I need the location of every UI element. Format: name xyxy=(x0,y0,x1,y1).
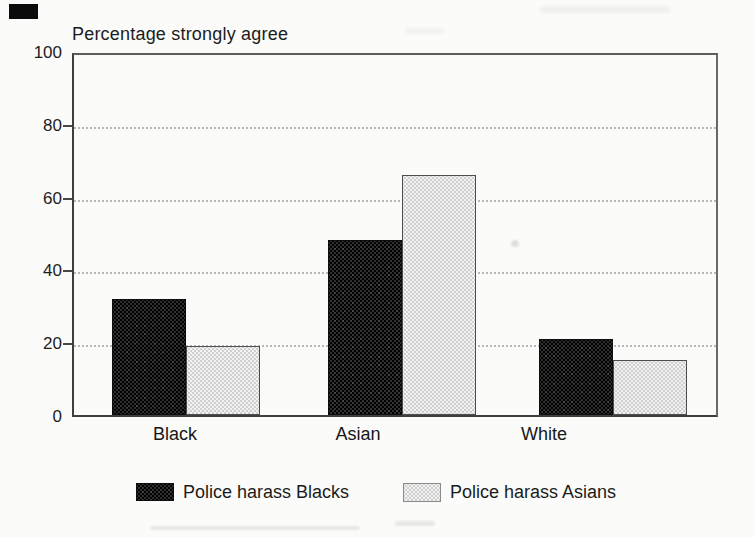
y-tick-label-0: 0 xyxy=(0,407,62,427)
gridline-80 xyxy=(74,127,716,129)
legend-label-police-harass-asians: Police harass Asians xyxy=(450,482,616,503)
bar-white-dark xyxy=(539,339,613,415)
legend-swatch-dark xyxy=(136,483,174,501)
y-axis-tick-20 xyxy=(63,343,72,345)
scan-smudge xyxy=(395,521,435,526)
legend-item-police-harass-asians: Police harass Asians xyxy=(403,482,616,502)
y-tick-label-20: 20 xyxy=(0,334,62,354)
bar-black-light xyxy=(186,346,260,415)
plot-area xyxy=(72,53,718,417)
chart-title: Percentage strongly agree xyxy=(72,24,288,44)
bar-black-dark xyxy=(112,299,186,415)
bar-asian-light xyxy=(402,175,476,415)
bar-white-light xyxy=(613,360,687,415)
figure-canvas: Percentage strongly agree 020406080100 B… xyxy=(0,0,755,537)
y-axis-tick-80 xyxy=(63,125,72,127)
scan-artifact-block xyxy=(9,4,38,19)
legend-label-police-harass-blacks: Police harass Blacks xyxy=(183,482,349,503)
y-tick-label-60: 60 xyxy=(0,189,62,209)
y-tick-label-80: 80 xyxy=(0,116,62,136)
legend-swatch-light xyxy=(403,483,441,502)
y-axis-tick-40 xyxy=(63,270,72,272)
scan-smudge xyxy=(405,28,445,34)
bar-asian-dark xyxy=(328,240,402,415)
x-category-label-black: Black xyxy=(153,424,197,444)
gridline-60 xyxy=(74,200,716,202)
y-tick-label-100: 100 xyxy=(0,43,62,63)
x-category-label-asian: Asian xyxy=(335,424,380,444)
x-category-label-white: White xyxy=(521,424,567,444)
scan-smudge xyxy=(540,6,670,13)
legend-item-police-harass-blacks: Police harass Blacks xyxy=(136,482,349,502)
y-axis-tick-60 xyxy=(63,198,72,200)
y-tick-label-40: 40 xyxy=(0,261,62,281)
scan-smudge xyxy=(150,526,360,530)
